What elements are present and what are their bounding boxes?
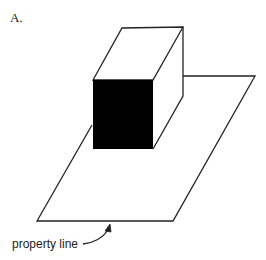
property-line-label: property line — [12, 237, 78, 251]
property-line-arrow — [83, 224, 111, 244]
diagram-canvas: A. property line — [0, 0, 266, 260]
building-top-face — [93, 27, 183, 80]
diagram-drawing — [0, 0, 266, 260]
panel-label: A. — [10, 10, 23, 26]
building-box — [93, 27, 183, 149]
building-side-face — [153, 27, 183, 149]
building-front-face — [93, 80, 153, 149]
